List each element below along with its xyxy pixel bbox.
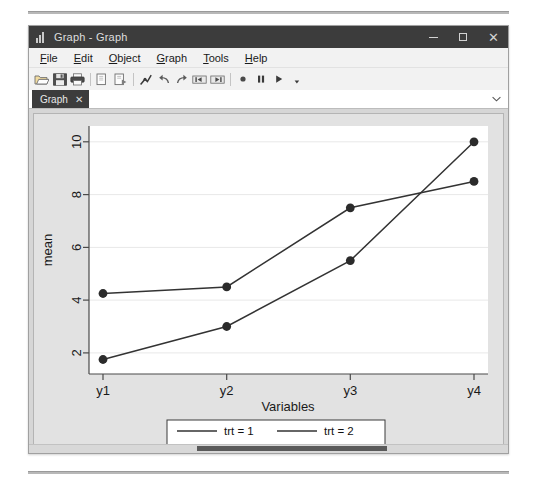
paste-icon[interactable] [112, 71, 129, 88]
page-rule-top [28, 11, 509, 14]
toolbar-separator [230, 73, 231, 86]
graph-window: Graph - Graph ✕ File Edit Object Graph T… [28, 25, 509, 454]
pause-icon[interactable] [252, 71, 269, 88]
y-tick-label: 4 [70, 296, 85, 303]
toolbar-separator [133, 73, 134, 86]
data-point [222, 283, 231, 292]
tab-graph[interactable]: Graph ✕ [32, 90, 89, 108]
y-axis-ticks: 246810 [70, 135, 90, 357]
plot-background [89, 126, 488, 374]
graph-region: 246810 y1y2y3y4 mean Variables trt = 1 [29, 109, 508, 453]
copy-icon[interactable] [94, 71, 111, 88]
open-icon[interactable] [33, 71, 50, 88]
x-axis-ticks: y1y2y3y4 [96, 374, 481, 398]
menu-item-edit[interactable]: Edit [66, 52, 101, 64]
window-controls: ✕ [418, 26, 508, 48]
menu-bar: File Edit Object Graph Tools Help [29, 48, 508, 68]
x-tick-label: y1 [96, 383, 110, 398]
x-tick-label: y2 [220, 383, 234, 398]
status-bar [29, 444, 508, 453]
record-icon[interactable] [234, 71, 251, 88]
x-tick-label: y3 [343, 383, 357, 398]
graph-editor-icon[interactable] [137, 71, 154, 88]
menu-item-tools[interactable]: Tools [195, 52, 237, 64]
tab-strip: Graph ✕ [29, 90, 508, 109]
menu-item-file[interactable]: File [32, 52, 66, 64]
bar-chart-icon [36, 31, 48, 43]
prev-graph-icon[interactable] [191, 71, 208, 88]
data-point [346, 203, 355, 212]
undo-icon[interactable] [155, 71, 172, 88]
minimize-icon [429, 37, 438, 38]
tab-close-icon[interactable]: ✕ [75, 94, 83, 105]
y-tick-label: 10 [70, 135, 85, 149]
status-progress-indicator [197, 446, 387, 451]
tab-overflow-button[interactable] [492, 90, 508, 108]
maximize-button[interactable] [448, 26, 478, 48]
window-title: Graph - Graph [54, 31, 128, 43]
legend-label-trt1: trt = 1 [224, 425, 254, 437]
next-graph-icon[interactable] [209, 71, 226, 88]
y-axis-title: mean [40, 234, 55, 267]
print-icon[interactable] [69, 71, 86, 88]
play-icon[interactable] [270, 71, 287, 88]
save-icon[interactable] [51, 71, 68, 88]
redo-icon[interactable] [173, 71, 190, 88]
maximize-icon [459, 33, 467, 41]
menu-item-graph[interactable]: Graph [149, 52, 196, 64]
y-tick-label: 8 [70, 191, 85, 198]
data-point [346, 256, 355, 265]
graph-canvas[interactable]: 246810 y1y2y3y4 mean Variables trt = 1 [33, 113, 504, 449]
title-bar: Graph - Graph ✕ [29, 26, 508, 48]
close-button[interactable]: ✕ [478, 26, 508, 48]
line-chart: 246810 y1y2y3y4 mean Variables trt = 1 [34, 114, 505, 450]
toolbar-separator [90, 73, 91, 86]
chevron-down-icon [492, 96, 501, 102]
menu-item-object[interactable]: Object [101, 52, 149, 64]
menu-item-help[interactable]: Help [237, 52, 276, 64]
tab-graph-label: Graph [40, 94, 68, 105]
data-point [99, 289, 108, 298]
x-axis-title: Variables [261, 399, 315, 414]
legend-label-trt2: trt = 2 [324, 425, 354, 437]
minimize-button[interactable] [418, 26, 448, 48]
data-point [222, 322, 231, 331]
page-rule-bottom [28, 471, 509, 474]
y-tick-label: 2 [70, 349, 85, 356]
data-point [470, 137, 479, 146]
screenshot-root: Graph - Graph ✕ File Edit Object Graph T… [0, 0, 537, 485]
x-tick-label: y4 [467, 383, 481, 398]
y-tick-label: 6 [70, 244, 85, 251]
data-point [99, 355, 108, 364]
play-dropdown-icon[interactable] [288, 71, 305, 88]
toolbar [29, 68, 508, 90]
data-point [470, 177, 479, 186]
close-icon: ✕ [488, 31, 499, 44]
